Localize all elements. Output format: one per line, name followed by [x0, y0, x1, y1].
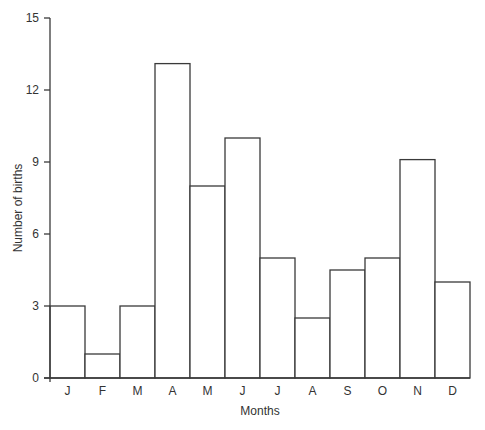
- x-tick-label: M: [203, 384, 213, 398]
- y-tick-label: 15: [26, 11, 40, 25]
- y-tick-label: 3: [32, 299, 39, 313]
- x-tick-label: N: [413, 384, 422, 398]
- bar-11: [435, 282, 470, 378]
- x-tick-label: A: [168, 384, 176, 398]
- y-tick-label: 9: [32, 155, 39, 169]
- bar-8: [330, 270, 365, 378]
- x-tick-label: J: [240, 384, 246, 398]
- y-tick-label: 0: [32, 371, 39, 385]
- births-bar-chart: 03691215 JFMAMJJASOND Months Number of b…: [0, 0, 485, 430]
- y-axis-label: Number of births: [11, 164, 25, 253]
- bar-2: [120, 306, 155, 378]
- bar-3: [155, 64, 190, 378]
- y-tick-label: 12: [26, 83, 40, 97]
- x-tick-label: O: [378, 384, 387, 398]
- bar-7: [295, 318, 330, 378]
- bars-group: [50, 64, 470, 378]
- x-ticks-group: JFMAMJJASOND: [65, 384, 458, 398]
- y-ticks-group: 03691215: [26, 11, 50, 385]
- x-tick-label: J: [65, 384, 71, 398]
- x-tick-label: J: [275, 384, 281, 398]
- bar-10: [400, 160, 435, 378]
- bar-4: [190, 186, 225, 378]
- x-tick-label: A: [308, 384, 316, 398]
- bar-1: [85, 354, 120, 378]
- x-axis-label: Months: [240, 404, 279, 418]
- x-tick-label: F: [99, 384, 106, 398]
- bar-9: [365, 258, 400, 378]
- x-tick-label: M: [133, 384, 143, 398]
- bar-5: [225, 138, 260, 378]
- x-tick-label: S: [343, 384, 351, 398]
- bar-0: [50, 306, 85, 378]
- bar-6: [260, 258, 295, 378]
- x-tick-label: D: [448, 384, 457, 398]
- y-tick-label: 6: [32, 227, 39, 241]
